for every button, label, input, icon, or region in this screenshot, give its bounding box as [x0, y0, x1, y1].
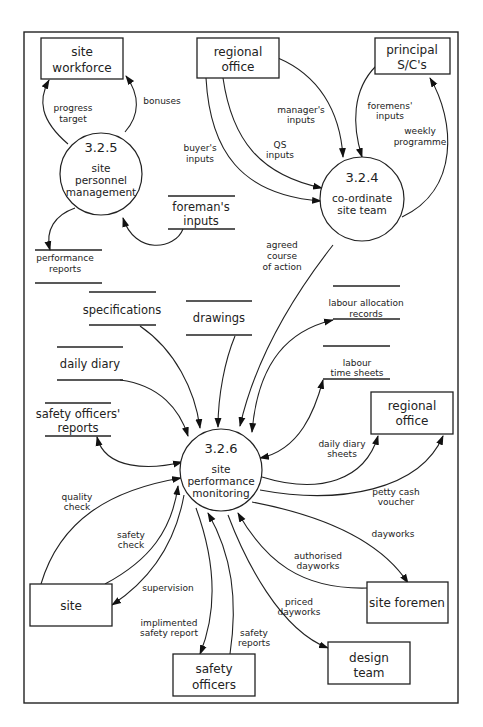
flow-label-foremens-inputs: inputs: [376, 111, 404, 121]
entity-label: principal: [386, 43, 438, 57]
store-label: inputs: [183, 214, 219, 228]
process-label: site: [92, 162, 111, 174]
flow-buyers-inputs-line: [206, 78, 321, 201]
entity-site-foremen[interactable]: site foremen: [367, 582, 448, 623]
entity-label: site: [60, 599, 82, 613]
flow-daily-diary-line: [120, 380, 188, 436]
entity-label: office: [396, 414, 429, 428]
flow-label-qs-inputs: inputs: [266, 150, 294, 160]
entity-regional-office-top[interactable]: regional office: [197, 38, 279, 78]
entity-regional-office-right[interactable]: regional office: [371, 392, 453, 434]
process-3-2-5[interactable]: 3.2.5 site personnel management: [60, 133, 142, 215]
flow-label-agreed-course: course: [267, 251, 298, 261]
flow-foremens-inputs-line: [356, 66, 376, 157]
flow-agreed-course-line: [240, 245, 333, 426]
data-flow-diagram: site workforce regional office principal…: [0, 0, 483, 727]
store-label: reports: [49, 264, 81, 274]
process-label: co-ordinate: [332, 192, 392, 204]
store-labour-time-sheets[interactable]: labour time sheets: [323, 346, 390, 379]
store-labour-allocation-records[interactable]: labour allocation records: [328, 286, 403, 319]
process-label: site team: [337, 204, 387, 216]
entity-label: office: [222, 60, 255, 74]
entity-label: team: [353, 666, 384, 680]
store-foremans-inputs[interactable]: foreman's inputs: [168, 196, 235, 229]
entity-site[interactable]: site: [30, 584, 112, 626]
process-label: monitoring: [192, 487, 249, 499]
store-label: reports: [57, 421, 98, 435]
flow-label-safety-reports: safety: [240, 628, 268, 638]
flow-label-buyers-inputs: buyer's: [183, 143, 216, 153]
flow-label-bonuses: bonuses: [143, 96, 181, 106]
flow-label-supervision: supervision: [142, 583, 194, 593]
process-3-2-4[interactable]: 3.2.4 co-ordinate site team: [320, 157, 404, 241]
flow-label-quality-check: check: [64, 502, 91, 512]
process-id: 3.2.6: [204, 441, 237, 456]
entity-label: site foremen: [369, 596, 445, 610]
flow-qs-inputs-line: [223, 78, 322, 188]
process-label: management: [66, 186, 136, 198]
entity-label: site: [71, 45, 93, 59]
entity-safety-officers[interactable]: safety officers: [173, 654, 255, 696]
store-label: specifications: [83, 303, 162, 317]
store-label: labour: [343, 358, 372, 368]
entity-label: regional: [388, 399, 437, 413]
flow-label-authorised-dayworks: authorised: [294, 551, 342, 561]
store-performance-reports[interactable]: performance reports: [35, 250, 102, 283]
store-specifications[interactable]: specifications: [83, 292, 162, 325]
entity-label: safety: [195, 662, 232, 676]
flow-label-qs-inputs: QS: [274, 140, 287, 150]
flow-label-progress-target: target: [59, 114, 87, 124]
flow-labour-time-sheets-line: [260, 380, 323, 458]
store-daily-diary[interactable]: daily diary: [57, 347, 123, 380]
flow-label-dayworks: dayworks: [371, 529, 414, 539]
flow-label-daily-diary-sheets: sheets: [327, 449, 357, 459]
entity-site-workforce[interactable]: site workforce: [41, 38, 123, 79]
process-id: 3.2.4: [345, 170, 378, 185]
flow-label-safety-reports: reports: [238, 638, 270, 648]
flow-label-managers-inputs: manager's: [277, 105, 325, 115]
store-label: time sheets: [331, 368, 384, 378]
flow-weekly-programme-line: [402, 78, 448, 217]
flow-label-managers-inputs: inputs: [287, 115, 315, 125]
flow-label-agreed-course: agreed: [266, 240, 298, 250]
flow-label-priced-dayworks: priced: [285, 597, 313, 607]
flow-safety-officers-reports-line: [97, 437, 182, 466]
store-label: drawings: [193, 311, 245, 325]
flow-label-safety-check: safety: [117, 530, 145, 540]
store-label: labour allocation: [328, 298, 403, 308]
flow-label-quality-check: quality: [62, 492, 93, 502]
store-label: daily diary: [60, 357, 120, 371]
flow-label-buyers-inputs: inputs: [186, 154, 214, 164]
process-label: performance: [187, 475, 254, 487]
store-label: performance: [36, 253, 94, 263]
flow-performance-reports-line: [49, 208, 75, 250]
entity-label: workforce: [52, 61, 111, 75]
flow-label-weekly-programme: programme: [394, 137, 447, 147]
process-id: 3.2.5: [84, 140, 117, 155]
flow-label-implimented-safety-report: implimented: [141, 618, 198, 628]
entity-label: S/C's: [397, 58, 427, 72]
store-drawings[interactable]: drawings: [186, 301, 252, 335]
flow-foremans-inputs-line: [123, 218, 183, 245]
store-label: foreman's: [172, 200, 229, 214]
flow-label-agreed-course: of action: [262, 262, 301, 272]
process-label: site: [212, 463, 231, 475]
store-label: safety officers': [36, 407, 121, 421]
flow-specifications-line: [140, 326, 200, 428]
entity-label: regional: [214, 45, 263, 59]
flow-implimented-safety-report-line: [196, 508, 212, 654]
flow-label-petty-cash-voucher: voucher: [378, 497, 415, 507]
entity-design-team[interactable]: design team: [328, 642, 410, 684]
store-label: records: [349, 309, 383, 319]
entity-label: design: [349, 651, 389, 665]
flow-label-priced-dayworks: dayworks: [277, 607, 320, 617]
entity-principal-sc[interactable]: principal S/C's: [375, 38, 450, 74]
flow-label-safety-check: check: [118, 540, 145, 550]
flow-drawings-line: [218, 336, 235, 427]
flow-labour-allocation-line: [252, 320, 333, 432]
process-3-2-6[interactable]: 3.2.6 site performance monitoring: [180, 429, 262, 511]
store-safety-officers-reports[interactable]: safety officers' reports: [36, 403, 121, 436]
flow-label-foremens-inputs: foremens': [368, 101, 413, 111]
flow-label-progress-target: progress: [54, 103, 93, 113]
flow-label-weekly-programme: weekly: [404, 126, 436, 136]
